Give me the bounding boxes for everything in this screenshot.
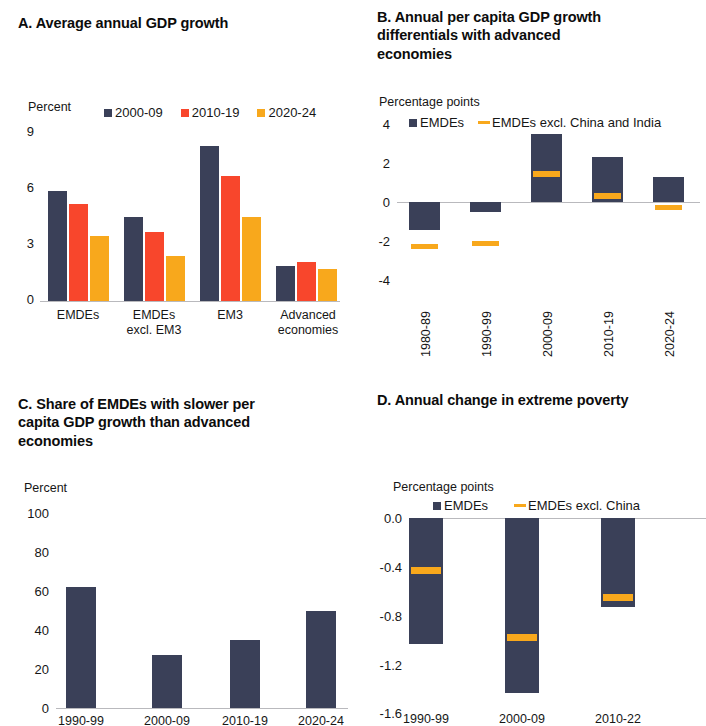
panel-b-xtick-1990-99: 1990-99 <box>480 311 494 357</box>
panel-d-xtick-2000-09: 2000-09 <box>485 712 559 726</box>
bar-c-2000-09 <box>152 655 182 708</box>
bar-a-emdes-excl-em3-2010-19 <box>145 232 164 301</box>
panel-a-xtick-emdes-excl-em3: EMDEs excl. EM3 <box>114 308 194 337</box>
panel-a-average-annual-gdp-growth: A. Average annual GDP growth Percent 200… <box>0 0 353 363</box>
bar-c-2020-24 <box>306 611 336 708</box>
panel-b-gdp-growth-differentials: B. Annual per capita GDP growth differen… <box>353 0 706 363</box>
bar-b-2000-09 <box>531 134 562 202</box>
marker-b-1980-89 <box>411 244 438 249</box>
bar-a-emdes-2000-09 <box>48 191 67 301</box>
panel-a-xtick-em3: EM3 <box>190 308 270 323</box>
bar-a-advanced-2020-24 <box>318 269 337 301</box>
panel-b-xtick-1980-89: 1980-89 <box>419 311 433 357</box>
bar-a-em3-2010-19 <box>221 176 240 301</box>
bar-a-emdes-excl-em3-2020-24 <box>166 256 185 301</box>
panel-a-xtick-emdes-line1: EMDEs <box>38 308 118 323</box>
panel-a-xtick-emdes-excl-em3-line1: EMDEs <box>114 308 194 323</box>
marker-d-1990-99 <box>411 567 441 574</box>
figure-panel-grid: A. Average annual GDP growth Percent 200… <box>0 0 706 726</box>
marker-b-1990-99 <box>472 241 499 246</box>
panel-c-xtick-2000-09: 2000-09 <box>130 714 204 726</box>
panel-a-xtick-advanced-line1: Advanced <box>266 308 350 323</box>
panel-b-plot <box>353 0 706 363</box>
panel-a-xtick-emdes-excl-em3-line2: excl. EM3 <box>114 323 194 338</box>
bar-a-em3-2000-09 <box>200 146 219 301</box>
panel-c-xtick-2010-19: 2010-19 <box>208 714 282 726</box>
bar-a-em3-2020-24 <box>242 217 261 301</box>
bar-b-2020-24 <box>653 177 684 202</box>
panel-c-xtick-1990-99: 1990-99 <box>44 714 118 726</box>
panel-a-xtick-advanced-economies: Advanced economies <box>266 308 350 337</box>
panel-d-xtick-1990-99: 1990-99 <box>389 712 463 726</box>
panel-d-plot <box>353 363 706 726</box>
bar-a-emdes-2010-19 <box>69 204 88 301</box>
panel-c-plot <box>0 363 353 726</box>
bar-a-emdes-2020-24 <box>90 236 109 301</box>
bar-b-1990-99 <box>470 202 501 212</box>
bar-a-emdes-excl-em3-2000-09 <box>124 217 143 301</box>
bar-c-1990-99 <box>66 587 96 708</box>
marker-d-2010-22 <box>603 594 633 601</box>
bar-c-2010-19 <box>230 640 260 708</box>
panel-c-share-of-emdes-slower-growth: C. Share of EMDEs with slower per capita… <box>0 363 353 726</box>
bar-a-advanced-2010-19 <box>297 262 316 301</box>
panel-a-xtick-advanced-line2: economies <box>266 323 350 338</box>
panel-c-xtick-2020-24: 2020-24 <box>284 714 358 726</box>
panel-a-xtick-emdes: EMDEs <box>38 308 118 323</box>
marker-d-2000-09 <box>507 634 537 641</box>
marker-b-2010-19 <box>594 193 621 199</box>
panel-b-xtick-2010-19: 2010-19 <box>602 311 616 357</box>
bar-d-2000-09 <box>505 518 539 693</box>
panel-d-annual-change-extreme-poverty: D. Annual change in extreme poverty Perc… <box>353 363 706 726</box>
panel-b-xtick-2020-24: 2020-24 <box>663 311 677 357</box>
marker-b-2000-09 <box>533 171 560 177</box>
bar-b-1980-89 <box>409 202 440 230</box>
panel-d-xtick-2010-22: 2010-22 <box>581 712 655 726</box>
marker-b-2020-24 <box>655 205 682 210</box>
panel-b-xtick-2000-09: 2000-09 <box>541 311 555 357</box>
bar-d-1990-99 <box>409 518 443 644</box>
bar-a-advanced-2000-09 <box>276 266 295 301</box>
panel-a-xtick-em3-line1: EM3 <box>190 308 270 323</box>
